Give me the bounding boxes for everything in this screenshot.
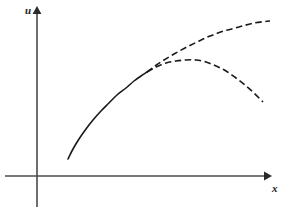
- x-axis-arrowhead-icon: [264, 172, 272, 181]
- figure-canvas: [0, 0, 292, 220]
- y-axis-arrowhead-icon: [33, 6, 42, 14]
- y-axis-label: u: [25, 5, 31, 16]
- primary-solid-branch-curve: [68, 72, 147, 159]
- lower-dashed-branch-curve: [147, 60, 263, 102]
- axes-group: [5, 6, 272, 207]
- x-axis-label: x: [272, 183, 278, 194]
- bifurcation-diagram-figure: u x: [0, 0, 292, 220]
- curves-group: [68, 21, 270, 159]
- upper-dashed-branch-curve: [147, 21, 270, 72]
